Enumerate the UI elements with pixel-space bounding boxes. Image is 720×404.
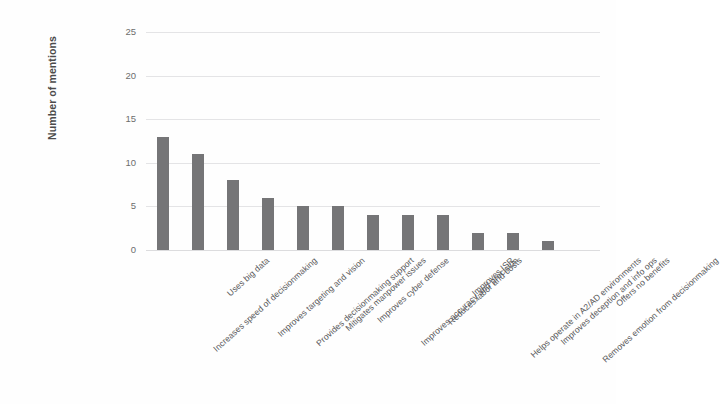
x-tick-label: Improves ISR (470, 256, 515, 298)
x-tick-label: Reduces labor and costs (447, 256, 524, 326)
x-tick-label: Improves deception and info ops (559, 256, 658, 347)
x-tick-label: Uses big data (226, 256, 271, 298)
